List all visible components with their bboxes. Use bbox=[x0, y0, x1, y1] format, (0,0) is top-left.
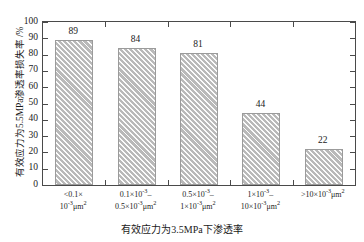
y-axis-tick-label: 0 bbox=[14, 179, 38, 190]
x-axis-tick-top bbox=[230, 22, 231, 27]
x-axis-tick bbox=[168, 180, 169, 185]
bar bbox=[55, 40, 93, 185]
x-axis-tick-labels: <0.1×10-3μm20.1×10-3–0.5×10-3μm20.5×10-3… bbox=[42, 189, 356, 219]
bar bbox=[242, 113, 280, 185]
bar-value-label: 81 bbox=[178, 39, 218, 50]
y-axis-tick-right bbox=[350, 55, 355, 56]
y-axis-tick bbox=[43, 22, 48, 23]
bar-chart: 有效应力为5.5MPa渗透率损失率 /% 0102030405060708090… bbox=[0, 0, 364, 242]
bar-value-label: 84 bbox=[116, 34, 156, 45]
x-axis-tick bbox=[230, 180, 231, 185]
x-axis-tick bbox=[105, 180, 106, 185]
y-axis-tick bbox=[43, 104, 48, 105]
x-axis-tick-top bbox=[168, 22, 169, 27]
y-axis-tick-labels: 0102030405060708090100 bbox=[14, 15, 38, 191]
y-axis-tick-right bbox=[350, 22, 355, 23]
y-axis-tick bbox=[43, 38, 48, 39]
y-axis-tick-label: 70 bbox=[14, 64, 38, 75]
x-axis-tick-top bbox=[293, 22, 294, 27]
bar bbox=[180, 53, 218, 185]
y-axis-tick-label: 10 bbox=[14, 162, 38, 173]
bar-value-label: 22 bbox=[303, 135, 343, 146]
y-axis-tick bbox=[43, 169, 48, 170]
bar-value-label: 89 bbox=[53, 26, 93, 37]
x-axis-tick-label: >10×10-3μm2 bbox=[283, 189, 363, 201]
y-axis-tick-label: 40 bbox=[14, 113, 38, 124]
bar bbox=[305, 149, 343, 185]
x-axis-tick-top bbox=[105, 22, 106, 27]
y-axis-tick-right bbox=[350, 71, 355, 72]
y-axis-tick bbox=[43, 71, 48, 72]
y-axis-tick-label: 20 bbox=[14, 146, 38, 157]
bar-value-label: 44 bbox=[240, 99, 280, 110]
y-axis-tick-label: 60 bbox=[14, 81, 38, 92]
y-axis-tick bbox=[43, 136, 48, 137]
y-axis-tick bbox=[43, 55, 48, 56]
y-axis-tick-label: 30 bbox=[14, 130, 38, 141]
y-axis-tick-right bbox=[350, 104, 355, 105]
y-axis-tick-label: 100 bbox=[14, 16, 38, 27]
y-axis-tick-right bbox=[350, 169, 355, 170]
y-axis-tick-right bbox=[350, 185, 355, 186]
y-axis-tick-right bbox=[350, 152, 355, 153]
x-axis-title: 有效应力为3.5MPa下渗透率 bbox=[0, 223, 364, 236]
y-axis-tick-right bbox=[350, 120, 355, 121]
y-axis-tick-right bbox=[350, 87, 355, 88]
y-axis-tick-label: 50 bbox=[14, 97, 38, 108]
y-axis-tick-label: 90 bbox=[14, 32, 38, 43]
y-axis-tick bbox=[43, 185, 48, 186]
y-axis-tick bbox=[43, 120, 48, 121]
y-axis-tick-label: 80 bbox=[14, 48, 38, 59]
x-axis-tick bbox=[293, 180, 294, 185]
y-axis-tick bbox=[43, 87, 48, 88]
bar bbox=[118, 48, 156, 185]
y-axis-tick-right bbox=[350, 136, 355, 137]
y-axis-tick-right bbox=[350, 38, 355, 39]
y-axis-tick bbox=[43, 152, 48, 153]
